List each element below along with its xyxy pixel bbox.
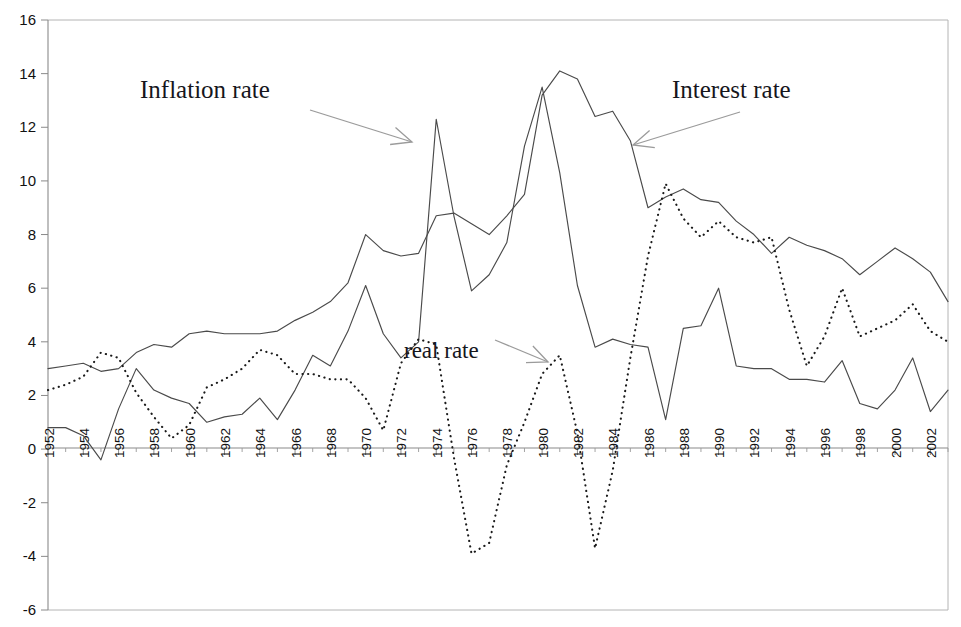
y-tick-label: -6 xyxy=(23,601,36,618)
y-tick-label: -4 xyxy=(23,547,36,564)
y-tick-label: 6 xyxy=(28,279,36,296)
x-tick-label: 1998 xyxy=(853,428,868,458)
x-tick-label: 1958 xyxy=(147,428,162,458)
x-tick-label: 1960 xyxy=(183,428,198,458)
annotation-label-real-rate: real rate xyxy=(404,338,479,363)
x-tick-label: 1988 xyxy=(677,428,692,458)
x-tick-label: 1980 xyxy=(536,428,551,458)
x-tick-label: 1970 xyxy=(359,428,374,458)
x-tick-label: 1990 xyxy=(712,428,727,458)
y-tick-label: 4 xyxy=(28,333,36,350)
annotation-label-interest-rate: Interest rate xyxy=(672,76,791,103)
y-tick-label: 16 xyxy=(19,11,36,28)
series-line-inflation-rate xyxy=(48,87,948,460)
x-tick-label: 1994 xyxy=(783,427,798,458)
x-axis-tick-labels: 1952195419561958196019621964196619681970… xyxy=(42,427,939,458)
plot-frame xyxy=(48,20,948,610)
x-tick-label: 1962 xyxy=(218,428,233,458)
y-tick-label: 8 xyxy=(28,226,36,243)
x-tick-label: 1996 xyxy=(818,428,833,458)
x-tick-label: 1968 xyxy=(324,428,339,458)
chart-canvas: -6-4-20246810121416 19521954195619581960… xyxy=(0,0,961,627)
y-tick-label: 0 xyxy=(28,440,36,457)
annotation-label-inflation-rate: Inflation rate xyxy=(140,76,270,103)
data-series-layer xyxy=(48,71,948,554)
x-tick-label: 1992 xyxy=(747,428,762,458)
x-tick-label: 1974 xyxy=(430,427,445,458)
x-tick-label: 1984 xyxy=(606,427,621,458)
y-tick-label: 10 xyxy=(19,172,36,189)
y-tick-label: 14 xyxy=(19,65,36,82)
x-tick-label: 1976 xyxy=(465,428,480,458)
x-tick-label: 1986 xyxy=(642,428,657,458)
y-tick-label: -2 xyxy=(23,494,36,511)
annotation-arrow-line xyxy=(495,340,548,362)
x-tick-label: 2000 xyxy=(889,428,904,458)
annotation-arrow-line xyxy=(633,112,740,145)
x-tick-label: 1982 xyxy=(571,428,586,458)
x-tick-label: 1966 xyxy=(289,428,304,458)
x-tick-label: 2002 xyxy=(924,428,939,458)
x-tick-label: 1964 xyxy=(253,427,268,458)
x-tick-label: 1956 xyxy=(112,428,127,458)
economic-rates-line-chart: -6-4-20246810121416 19521954195619581960… xyxy=(0,0,961,627)
y-axis-ticks: -6-4-20246810121416 xyxy=(19,11,48,618)
series-line-real-rate xyxy=(48,184,948,554)
y-tick-label: 12 xyxy=(19,118,36,135)
x-tick-label: 1954 xyxy=(77,427,92,458)
y-tick-label: 2 xyxy=(28,386,36,403)
x-tick-label: 1978 xyxy=(500,428,515,458)
series-line-interest-rate xyxy=(48,71,948,371)
annotation-arrow-line xyxy=(310,110,412,142)
x-tick-label: 1972 xyxy=(394,428,409,458)
x-tick-label: 1952 xyxy=(42,428,57,458)
